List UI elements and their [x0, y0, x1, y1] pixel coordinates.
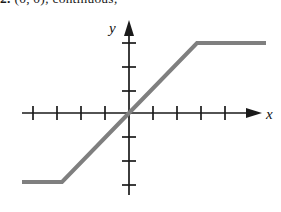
graph-figure: y x — [0, 14, 281, 212]
x-axis-label: x — [265, 106, 273, 122]
x-axis-arrowhead — [246, 108, 262, 118]
y-axis-label: y — [107, 20, 116, 36]
y-axis-arrowhead — [124, 20, 134, 36]
axes-group — [22, 20, 262, 195]
answer-item-number: 2. — [0, 0, 11, 6]
answer-text: (0, 0); continuous; — [15, 0, 118, 6]
figure-page: 2.(0, 0); continuous; — [0, 0, 281, 212]
graph-svg: y x — [0, 14, 281, 212]
surrounding-answer-text: 2.(0, 0); continuous; — [0, 0, 281, 7]
